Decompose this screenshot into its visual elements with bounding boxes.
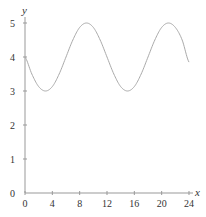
x-tick-label: 12 [102, 198, 112, 209]
x-tick-label: 24 [184, 198, 194, 209]
y-tick-label: 4 [10, 52, 15, 63]
x-tick-label: 20 [157, 198, 167, 209]
y-tick-label: 1 [10, 154, 15, 165]
data-line [25, 23, 189, 91]
ticks [23, 23, 189, 195]
line-chart: 04812162024012345 x y [0, 0, 206, 217]
x-tick-label: 4 [50, 198, 55, 209]
y-axis-label: y [21, 4, 27, 16]
x-tick-label: 8 [77, 198, 82, 209]
x-tick-label: 16 [129, 198, 139, 209]
y-tick-label: 5 [10, 18, 15, 29]
x-tick-label: 0 [23, 198, 28, 209]
y-tick-label: 0 [10, 188, 15, 199]
y-tick-label: 2 [10, 120, 15, 131]
axes [25, 17, 193, 193]
y-tick-label: 3 [10, 86, 15, 97]
x-axis-label: x [194, 186, 200, 198]
tick-labels: 04812162024012345 [10, 18, 194, 210]
